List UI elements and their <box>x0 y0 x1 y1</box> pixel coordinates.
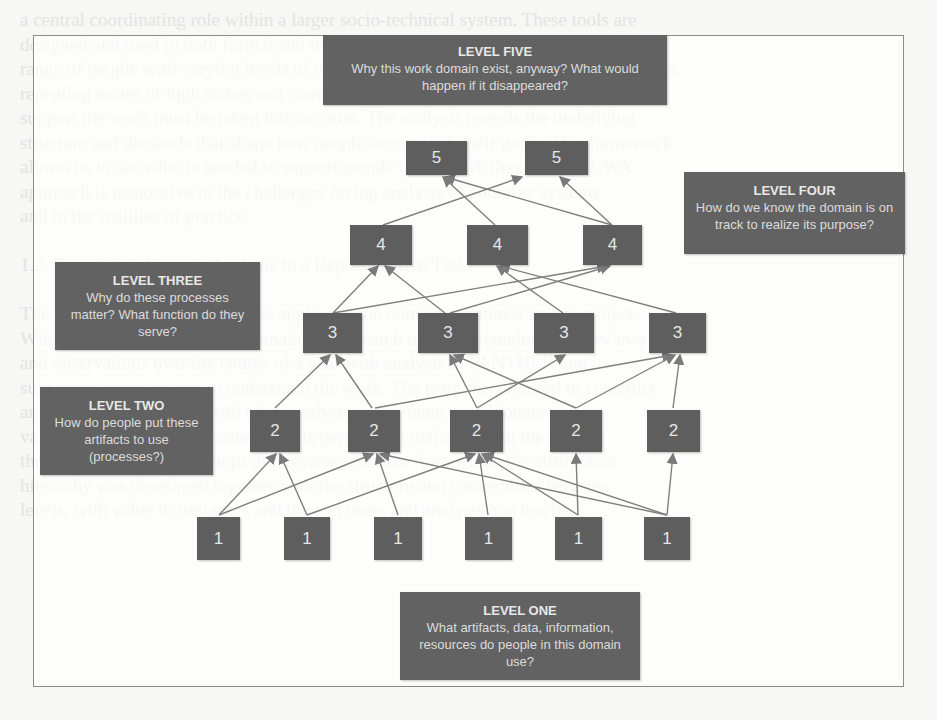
level2-node-2: 2 <box>348 410 400 452</box>
level-two-label: LEVEL TWO How do people put these artifa… <box>40 387 213 475</box>
level2-node-3: 2 <box>450 410 503 452</box>
level3-node-1: 3 <box>303 313 362 353</box>
level-two-title: LEVEL TWO <box>50 397 203 414</box>
level-two-question: How do people put these artifacts to use… <box>55 415 199 464</box>
level-three-title: LEVEL THREE <box>65 272 250 289</box>
level3-node-3: 3 <box>534 313 594 353</box>
level-five-question: Why this work domain exist, anyway? What… <box>351 61 639 93</box>
level-four-question: How do we know the domain is on track to… <box>696 200 893 232</box>
level-five-label: LEVEL FIVE Why this work domain exist, a… <box>323 35 667 105</box>
level4-node-3: 4 <box>583 225 642 265</box>
level3-node-4: 3 <box>649 313 706 353</box>
level-five-title: LEVEL FIVE <box>333 43 657 60</box>
level2-node-1: 2 <box>250 410 300 452</box>
level4-node-2: 4 <box>467 225 528 265</box>
level3-node-2: 3 <box>418 313 478 353</box>
level-one-label: LEVEL ONE What artifacts, data, informat… <box>400 592 640 680</box>
level1-node-6: 1 <box>644 517 690 560</box>
level-one-question: What artifacts, data, information, resou… <box>419 620 621 669</box>
level2-node-5: 2 <box>647 410 700 452</box>
level5-node-1: 5 <box>406 141 467 175</box>
level2-node-4: 2 <box>550 410 602 452</box>
level-one-title: LEVEL ONE <box>410 602 630 619</box>
level-three-label: LEVEL THREE Why do these processes matte… <box>55 262 260 350</box>
level1-node-5: 1 <box>555 517 602 560</box>
level-three-question: Why do these processes matter? What func… <box>71 290 244 339</box>
level-four-title: LEVEL FOUR <box>694 182 895 199</box>
level1-node-4: 1 <box>465 517 512 560</box>
level1-node-3: 1 <box>374 517 422 560</box>
level1-node-2: 1 <box>284 517 330 560</box>
level4-node-1: 4 <box>350 225 412 265</box>
level5-node-2: 5 <box>525 141 588 175</box>
level1-node-1: 1 <box>197 517 240 560</box>
level-four-label: LEVEL FOUR How do we know the domain is … <box>684 172 905 254</box>
